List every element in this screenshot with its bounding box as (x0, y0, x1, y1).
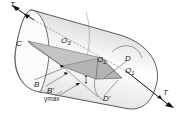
label-c: C (16, 39, 22, 48)
label-d: D (125, 54, 131, 63)
label-d-prime: D' (103, 94, 111, 103)
torsion-cylinder-diagram: T T C O3 O2 O1 D D' B B' γmax (0, 0, 178, 121)
double-arrowhead-bottom-icon (157, 95, 162, 99)
label-b-prime: B' (47, 86, 54, 95)
label-torque-bottom: T (163, 88, 169, 97)
label-b: B (34, 80, 40, 89)
label-gamma-max: γmax (44, 95, 60, 103)
